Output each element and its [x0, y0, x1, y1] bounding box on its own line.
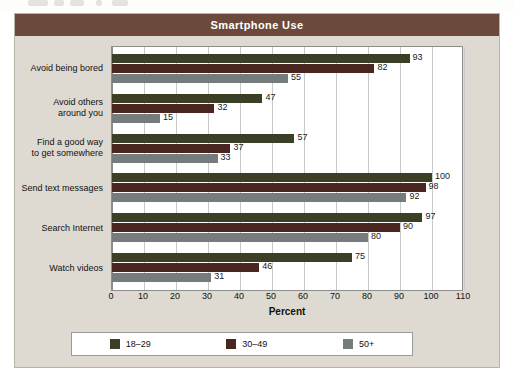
legend-swatch [110, 339, 120, 349]
legend-swatch [226, 339, 236, 349]
bar-2 [112, 233, 368, 242]
legend-label: 30–49 [242, 339, 267, 349]
bar-group: 979080 [112, 213, 462, 243]
bar-row: 75 [112, 253, 462, 262]
category-label: Send text messages [15, 174, 109, 204]
bar-value-label: 92 [406, 191, 419, 201]
axis-tick-label: 20 [170, 291, 180, 301]
bar-row: 15 [112, 114, 462, 123]
bar-row: 46 [112, 263, 462, 272]
bar-value-label: 55 [288, 72, 301, 82]
axis-tick-label: 30 [202, 291, 212, 301]
axis-tick-label: 80 [362, 291, 372, 301]
chart-canvas: Avoid being boredAvoid othersaround youF… [15, 36, 501, 369]
page-title: Smartphone Use [210, 19, 303, 31]
bar-value-label: 31 [211, 271, 224, 281]
category-axis-labels: Avoid being boredAvoid othersaround youF… [15, 46, 109, 291]
bar-0 [112, 94, 262, 103]
legend-item[interactable]: 18–29 [110, 339, 151, 349]
bar-row: 100 [112, 173, 462, 182]
axis-tick-label: 40 [234, 291, 244, 301]
bar-2 [112, 74, 288, 83]
bar-0 [112, 213, 422, 222]
bar-group: 754631 [112, 253, 462, 283]
bar-row: 47 [112, 94, 462, 103]
chart-title-bar: Smartphone Use [15, 14, 499, 36]
axis-tick-label: 90 [394, 291, 404, 301]
bar-value-label: 15 [160, 112, 173, 122]
bar-2 [112, 154, 218, 163]
category-label: Watch videos [15, 254, 109, 284]
bar-1 [112, 144, 230, 153]
gridline [464, 47, 465, 290]
bar-row: 93 [112, 54, 462, 63]
bar-1 [112, 223, 400, 232]
bar-group: 938255 [112, 54, 462, 84]
bar-row: 37 [112, 144, 462, 153]
bar-value-label: 32 [214, 102, 227, 112]
value-axis-ticks: 0102030405060708090100110 [111, 291, 463, 307]
bar-1 [112, 183, 426, 192]
bar-value-label: 100 [432, 171, 450, 181]
bar-0 [112, 54, 410, 63]
bar-value-label: 98 [426, 181, 439, 191]
bar-row: 80 [112, 233, 462, 242]
bar-0 [112, 134, 294, 143]
bar-value-label: 33 [218, 152, 231, 162]
legend-swatch [343, 339, 353, 349]
bar-group: 473215 [112, 94, 462, 124]
bar-0 [112, 253, 352, 262]
legend-label: 50+ [359, 339, 374, 349]
axis-tick-label: 50 [266, 291, 276, 301]
axis-tick-label: 110 [456, 291, 470, 301]
bar-row: 92 [112, 193, 462, 202]
bar-value-label: 80 [368, 231, 381, 241]
bar-value-label: 46 [259, 261, 272, 271]
bar-value-label: 90 [400, 221, 413, 231]
bar-groups: 9382554732155737331009892979080754631 [112, 47, 462, 290]
bar-2 [112, 273, 211, 282]
category-label: Search Internet [15, 214, 109, 244]
bar-2 [112, 114, 160, 123]
bar-group: 573733 [112, 134, 462, 164]
bar-value-label: 75 [352, 251, 365, 261]
bar-row: 33 [112, 154, 462, 163]
bar-row: 31 [112, 273, 462, 282]
chart-figure: Smartphone Use Avoid being boredAvoid ot… [14, 13, 500, 368]
bar-row: 55 [112, 74, 462, 83]
chart-legend: 18–2930–4950+ [71, 332, 413, 356]
bar-row: 57 [112, 134, 462, 143]
legend-item[interactable]: 50+ [343, 339, 374, 349]
bar-2 [112, 193, 406, 202]
category-label: Find a good wayto get somewhere [15, 133, 109, 163]
bar-1 [112, 64, 374, 73]
axis-tick-label: 10 [138, 291, 148, 301]
legend-label: 18–29 [126, 339, 151, 349]
bar-value-label: 93 [410, 52, 423, 62]
axis-tick-label: 60 [298, 291, 308, 301]
scan-edge-artifact [0, 0, 514, 12]
bar-row: 90 [112, 223, 462, 232]
bar-value-label: 82 [374, 62, 387, 72]
bar-value-label: 37 [230, 142, 243, 152]
bar-row: 82 [112, 64, 462, 73]
bar-value-label: 57 [294, 132, 307, 142]
bar-value-label: 97 [422, 211, 435, 221]
bar-0 [112, 173, 432, 182]
x-axis-label: Percent [111, 306, 463, 317]
plot-area: 9382554732155737331009892979080754631 [111, 46, 463, 291]
bar-group: 1009892 [112, 173, 462, 203]
category-label: Avoid being bored [15, 53, 109, 83]
axis-tick-label: 0 [108, 291, 113, 301]
legend-item[interactable]: 30–49 [226, 339, 267, 349]
category-label: Avoid othersaround you [15, 93, 109, 123]
bar-1 [112, 263, 259, 272]
bar-value-label: 47 [262, 92, 275, 102]
axis-tick-label: 100 [423, 291, 438, 301]
axis-tick-label: 70 [330, 291, 340, 301]
